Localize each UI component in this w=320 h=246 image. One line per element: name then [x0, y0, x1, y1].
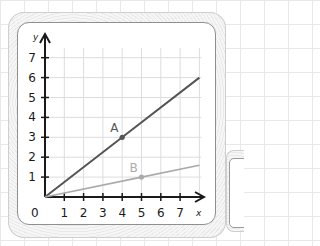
point-b: [139, 175, 144, 180]
x-axis-label: x: [195, 208, 202, 218]
y-tick-label: 6: [28, 71, 36, 85]
y-axis-label: y: [32, 32, 39, 42]
x-tick-label: 6: [157, 206, 165, 220]
y-tick-label: 5: [28, 91, 36, 105]
x-tick-label: 7: [176, 206, 184, 220]
point-label-a: A: [110, 121, 119, 135]
line-graph: yx0 12345671234567 AB: [0, 0, 244, 246]
y-tick-label: 3: [28, 130, 36, 144]
y-tick-label: 7: [28, 51, 36, 65]
point-a: [120, 135, 125, 140]
y-tick-label: 2: [28, 150, 36, 164]
origin-label: 0: [31, 206, 39, 220]
x-tick-label: 1: [60, 206, 68, 220]
grid-lines: [45, 48, 201, 197]
y-tick-label: 1: [28, 170, 36, 184]
x-tick-label: 3: [99, 206, 107, 220]
y-tick-label: 4: [28, 110, 36, 124]
point-label-b: B: [130, 161, 138, 175]
x-tick-label: 2: [80, 206, 88, 220]
x-tick-label: 4: [118, 206, 126, 220]
x-tick-label: 5: [138, 206, 146, 220]
